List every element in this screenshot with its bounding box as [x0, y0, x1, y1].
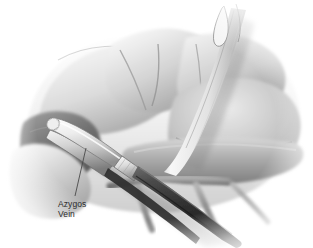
- azygos-vein-label: Azygos Vein: [58, 199, 86, 219]
- azygos-label-line-2: Vein: [58, 209, 86, 219]
- edge-vignette: [0, 0, 313, 248]
- medical-illustration: Azygos Vein: [0, 0, 313, 248]
- anatomy-artwork: [0, 0, 313, 248]
- azygos-label-line-1: Azygos: [58, 199, 86, 209]
